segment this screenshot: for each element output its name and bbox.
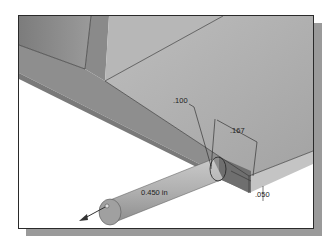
extrude-distance-label[interactable]: 0.450 in [141,188,168,197]
radius-dimension-label[interactable]: .100 [173,96,188,105]
offset-dimension-label[interactable]: .050 [255,190,270,199]
width-dimension-label[interactable]: .167 [230,126,245,135]
cylinder-end-cap[interactable] [99,199,121,225]
cad-viewport[interactable]: .100 .167 .050 0.450 in [18,15,314,229]
model-canvas[interactable]: .100 .167 .050 0.450 in [19,16,313,228]
